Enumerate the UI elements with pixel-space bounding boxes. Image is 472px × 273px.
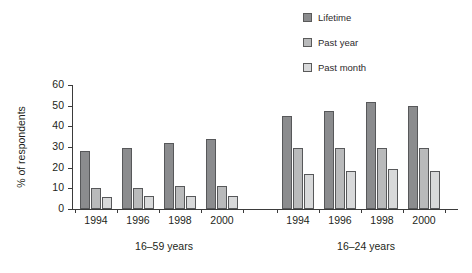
x-tick xyxy=(319,209,320,213)
y-tick-label-30: 30 xyxy=(52,140,64,152)
bar-1624-1996-lifetime xyxy=(324,111,334,209)
y-tick-30: 30 xyxy=(68,147,72,148)
y-tick-20: 20 xyxy=(68,168,72,169)
bar-1659-1996-past-year xyxy=(133,188,143,209)
y-tick-label-0: 0 xyxy=(58,202,64,214)
x-label-1659-1998: 1998 xyxy=(160,214,200,227)
y-tick-50: 50 xyxy=(68,106,72,107)
bar-1624-1998-lifetime xyxy=(366,102,376,209)
x-label-1624-1994: 1994 xyxy=(278,214,318,227)
legend-label-lifetime: Lifetime xyxy=(318,12,351,23)
x-label-1659-2000: 2000 xyxy=(202,214,242,227)
bar-1624-1998-past-year xyxy=(377,148,387,209)
bar-1659-2000-past-year xyxy=(217,186,227,209)
bar-1659-2000-past-month xyxy=(228,196,238,209)
x-label-1624-1998: 1998 xyxy=(362,214,402,227)
x-axis-line xyxy=(72,209,458,210)
bar-1624-1994-past-month xyxy=(304,174,314,209)
bar-1624-1996-past-month xyxy=(346,171,356,209)
x-tick xyxy=(243,209,244,213)
bar-1659-1998-lifetime xyxy=(164,143,174,209)
x-tick xyxy=(445,209,446,213)
legend-swatch-past-month xyxy=(303,63,312,72)
bar-1624-1998-past-month xyxy=(388,169,398,209)
y-tick-label-40: 40 xyxy=(52,119,64,131)
y-tick-label-60: 60 xyxy=(52,78,64,90)
x-tick xyxy=(75,209,76,213)
y-tick-label-20: 20 xyxy=(52,161,64,173)
bar-1624-1996-past-year xyxy=(335,148,345,209)
bar-1659-1996-lifetime xyxy=(122,148,132,209)
bar-1659-1994-lifetime xyxy=(80,151,90,209)
y-tick-label-50: 50 xyxy=(52,99,64,111)
y-axis-label: % of respondents xyxy=(14,85,28,209)
x-label-1624-2000: 2000 xyxy=(404,214,444,227)
y-tick-10: 10 xyxy=(68,188,72,189)
bar-1659-1996-past-month xyxy=(144,196,154,209)
x-tick xyxy=(159,209,160,213)
bar-1624-2000-past-year xyxy=(419,148,429,209)
legend-swatch-lifetime xyxy=(303,13,312,22)
y-axis-line xyxy=(72,85,73,209)
x-tick xyxy=(201,209,202,213)
x-label-1659-1994: 1994 xyxy=(76,214,116,227)
plot-area: 0102030405060 xyxy=(72,85,458,209)
chart-legend: Lifetime Past year Past month xyxy=(303,10,463,85)
legend-item-lifetime: Lifetime xyxy=(303,10,463,24)
bar-1624-1994-past-year xyxy=(293,148,303,209)
bar-1624-2000-lifetime xyxy=(408,106,418,209)
x-label-1624-1996: 1996 xyxy=(320,214,360,227)
bar-1659-1994-past-month xyxy=(102,197,112,209)
group-label-1: 16–59 years xyxy=(104,240,224,253)
legend-item-past-month: Past month xyxy=(303,60,463,74)
bar-1659-1998-past-year xyxy=(175,186,185,209)
legend-item-past-year: Past year xyxy=(303,35,463,49)
bar-1659-1998-past-month xyxy=(186,196,196,209)
x-tick xyxy=(117,209,118,213)
group-label-2: 16–24 years xyxy=(306,240,426,253)
y-tick-60: 60 xyxy=(68,85,72,86)
bar-chart-figure: Lifetime Past year Past month % of respo… xyxy=(0,0,472,273)
x-tick xyxy=(361,209,362,213)
y-tick-0: 0 xyxy=(68,209,72,210)
y-tick-40: 40 xyxy=(68,126,72,127)
bar-1624-1994-lifetime xyxy=(282,116,292,209)
bar-1659-2000-lifetime xyxy=(206,139,216,209)
y-tick-label-10: 10 xyxy=(52,181,64,193)
bar-1659-1994-past-year xyxy=(91,188,101,209)
legend-swatch-past-year xyxy=(303,38,312,47)
x-label-1659-1996: 1996 xyxy=(118,214,158,227)
legend-label-past-month: Past month xyxy=(318,62,366,73)
x-tick xyxy=(277,209,278,213)
legend-label-past-year: Past year xyxy=(318,37,358,48)
x-tick xyxy=(403,209,404,213)
bar-1624-2000-past-month xyxy=(430,171,440,209)
